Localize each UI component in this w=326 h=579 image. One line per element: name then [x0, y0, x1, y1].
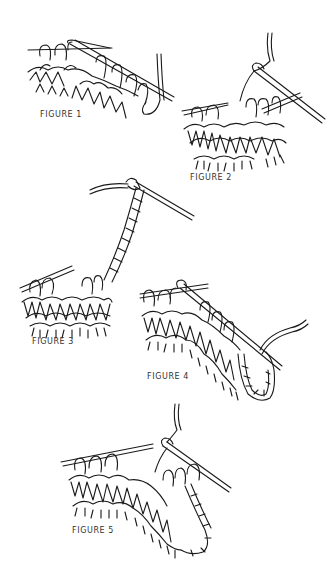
- figure-4: FIGURE 4: [130, 270, 326, 410]
- figure-4-illustration: [130, 270, 326, 410]
- figure-5: FIGURE 5: [55, 400, 245, 579]
- figure-1: FIGURE 1: [0, 0, 180, 130]
- figure-1-illustration: [0, 0, 180, 130]
- figure-3-label: FIGURE 3: [32, 337, 74, 346]
- figure-2: FIGURE 2: [170, 25, 326, 190]
- figure-5-illustration: [55, 400, 245, 579]
- figure-4-label: FIGURE 4: [147, 372, 189, 381]
- figure-5-label: FIGURE 5: [72, 526, 114, 535]
- figure-2-illustration: [170, 25, 326, 190]
- figure-1-label: FIGURE 1: [40, 110, 82, 119]
